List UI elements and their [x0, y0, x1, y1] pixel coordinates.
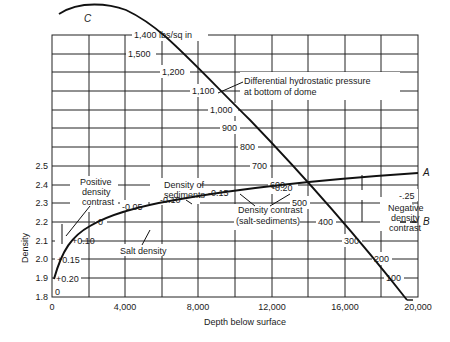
svg-text:+0.10: +0.10	[72, 236, 95, 246]
svg-text:2.5: 2.5	[35, 161, 48, 171]
svg-text:-0.20: -0.20	[272, 183, 293, 193]
svg-text:4,000: 4,000	[114, 302, 137, 312]
svg-text:1,200: 1,200	[162, 67, 185, 77]
pressure-curve	[59, 5, 407, 301]
svg-text:2.0: 2.0	[35, 254, 48, 264]
svg-text:Salt density: Salt density	[120, 246, 167, 256]
curve-end-labels: A B C	[84, 13, 430, 227]
svg-text:2.2: 2.2	[35, 217, 48, 227]
svg-text:at bottom of dome: at bottom of dome	[244, 87, 317, 97]
svg-text:20,000: 20,000	[404, 302, 432, 312]
svg-text:2.3: 2.3	[35, 198, 48, 208]
svg-text:(salt-sediments): (salt-sediments)	[236, 216, 300, 226]
y-axis-ticks: 1.8 1.9 2.0 2.1 2.2 2.3 2.4 2.5	[35, 161, 48, 302]
svg-text:200: 200	[374, 254, 389, 264]
svg-text:16,000: 16,000	[331, 302, 359, 312]
svg-text:+0.15: +0.15	[57, 255, 80, 265]
svg-text:1,000: 1,000	[210, 105, 233, 115]
svg-text:contrast: contrast	[82, 197, 115, 207]
x-axis-label: Depth below surface	[204, 317, 286, 327]
svg-text:contrast: contrast	[389, 223, 422, 233]
svg-text:B: B	[423, 216, 430, 227]
svg-text:0: 0	[49, 302, 54, 312]
svg-text:Negative: Negative	[388, 203, 424, 213]
svg-text:sediments: sediments	[164, 190, 206, 200]
svg-text:100: 100	[386, 273, 401, 283]
zero-label: 0	[55, 287, 60, 297]
density-depth-chart: 1,400 lbs/sq in 1,500 1,200 1,100 1,000 …	[0, 0, 450, 342]
svg-text:-0.15: -0.15	[208, 188, 229, 198]
x-axis-ticks: 0 4,000 8,000 12,000 16,000 20,000	[49, 302, 431, 312]
svg-text:+0.20: +0.20	[56, 274, 79, 284]
svg-text:1,500: 1,500	[128, 49, 151, 59]
svg-text:900: 900	[222, 123, 237, 133]
svg-text:1,100: 1,100	[192, 86, 215, 96]
svg-text:12,000: 12,000	[258, 302, 286, 312]
svg-text:Density of: Density of	[164, 180, 205, 190]
y-axis-label: Density	[20, 232, 30, 263]
svg-text:Density contrast: Density contrast	[238, 205, 303, 215]
svg-text:400: 400	[318, 217, 333, 227]
svg-text:density: density	[82, 187, 111, 197]
svg-text:Differential hydrostatic press: Differential hydrostatic pressure	[244, 76, 370, 86]
svg-text:2.4: 2.4	[35, 180, 48, 190]
svg-text:1.8: 1.8	[35, 292, 48, 302]
svg-text:0: 0	[98, 217, 103, 227]
svg-text:-0.05: -0.05	[122, 202, 143, 212]
svg-text:700: 700	[252, 161, 267, 171]
svg-text:-.25: -.25	[399, 191, 415, 201]
svg-text:C: C	[84, 13, 92, 24]
svg-text:8,000: 8,000	[187, 302, 210, 312]
svg-text:1,400 lbs/sq in: 1,400 lbs/sq in	[134, 30, 192, 40]
svg-text:2.1: 2.1	[35, 236, 48, 246]
svg-text:A: A	[422, 167, 430, 178]
svg-text:300: 300	[344, 236, 359, 246]
svg-text:800: 800	[240, 142, 255, 152]
svg-text:Positive: Positive	[80, 177, 112, 187]
svg-text:density: density	[391, 213, 420, 223]
svg-text:1.9: 1.9	[35, 273, 48, 283]
